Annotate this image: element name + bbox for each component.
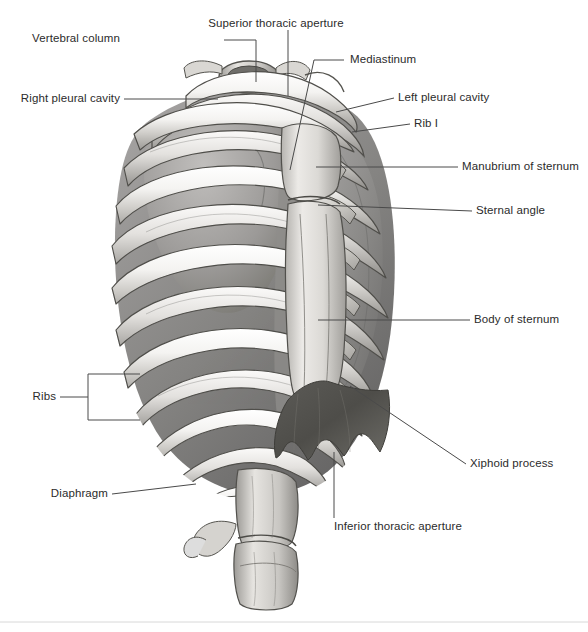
label-vertebral-column: Vertebral column: [0, 33, 120, 45]
label-sternal-angle: Sternal angle: [476, 205, 545, 217]
label-inferior-thoracic-aperture: Inferior thoracic aperture: [334, 521, 462, 533]
label-manubrium-of-sternum: Manubrium of sternum: [462, 161, 579, 173]
lower-vertebral-column: [184, 469, 298, 611]
label-body-of-sternum: Body of sternum: [474, 314, 559, 326]
label-xiphoid-process: Xiphoid process: [470, 458, 553, 470]
leader-diaphragm: [112, 484, 196, 494]
label-left-pleural-cavity: Left pleural cavity: [398, 92, 489, 104]
manubrium: [281, 124, 341, 201]
leader-left-pleural-cavity: [336, 98, 394, 112]
label-mediastinum: Mediastinum: [350, 54, 416, 66]
label-rib-i: Rib I: [414, 118, 438, 130]
label-superior-thoracic-aperture: Superior thoracic aperture: [208, 18, 344, 30]
label-diaphragm: Diaphragm: [0, 488, 108, 500]
label-ribs: Ribs: [0, 391, 56, 403]
anatomy-figure: Vertebral column Superior thoracic apert…: [0, 0, 588, 632]
label-right-pleural-cavity: Right pleural cavity: [0, 93, 120, 105]
sternum-body: [285, 201, 346, 401]
